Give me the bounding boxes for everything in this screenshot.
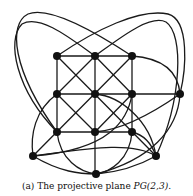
node-bottom (92, 170, 100, 178)
edge-main-diagonal (57, 56, 156, 156)
projective-plane-diagram (0, 0, 193, 180)
curve-right-upper (132, 56, 180, 94)
node-a2 (91, 52, 99, 60)
curve-c1-to-bottom (57, 132, 96, 174)
node-b2 (91, 90, 99, 98)
node-right (176, 90, 184, 98)
node-a3 (128, 52, 136, 60)
figure-caption: (a) The projective plane PG(2,3). (0, 181, 193, 191)
node-c2 (91, 128, 99, 136)
node-a1 (53, 52, 61, 60)
node-c1 (53, 128, 61, 136)
node-c3 (128, 128, 136, 136)
node-b3 (128, 90, 136, 98)
node-bottom-left (29, 152, 37, 160)
caption-math: PG(2,3) (134, 181, 169, 191)
caption-suffix: . (168, 181, 171, 191)
node-b1 (53, 90, 61, 98)
edge-anti-diagonal (33, 56, 132, 156)
curve-left-to-bl (32, 94, 57, 156)
caption-prefix: (a) The projective plane (22, 181, 134, 191)
curve-mid-right-to-bl (33, 94, 132, 156)
curve-top-left-inner (15, 22, 95, 132)
node-bottom-right (152, 152, 160, 160)
projective-plane-figure: (a) The projective plane PG(2,3). (0, 0, 193, 196)
